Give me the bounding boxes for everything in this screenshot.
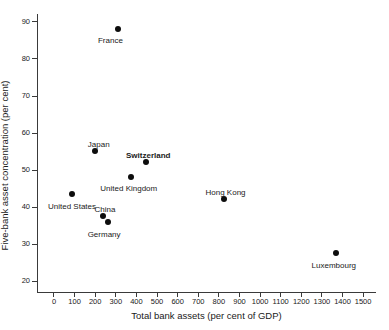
y-axis-title: Five-bank asset concentration (per cent): [0, 26, 12, 305]
data-point-label: United Kingdom: [100, 185, 157, 193]
y-tick-label: 60: [22, 129, 30, 137]
data-point-label: China: [94, 206, 115, 214]
y-tick-label: 90: [22, 18, 30, 26]
x-tick-label: 1100: [273, 298, 289, 306]
x-tick-label: 800: [213, 298, 226, 306]
data-point-label: Switzerland: [126, 152, 170, 160]
data-point-label: Germany: [88, 231, 121, 239]
x-tick-label: 1300: [314, 298, 331, 306]
x-tick-label: 900: [233, 298, 246, 306]
x-axis-line: [37, 292, 376, 293]
y-tick-label: 20: [22, 278, 30, 286]
x-tick: 1000: [260, 293, 261, 297]
data-point-label: Japan: [88, 141, 110, 149]
x-tick: 800: [218, 293, 219, 297]
data-point-label: United States: [48, 203, 96, 211]
x-tick: 1300: [321, 293, 322, 297]
x-tick-label: 0: [52, 298, 56, 306]
x-tick: 400: [136, 293, 137, 297]
x-tick: 1200: [301, 293, 302, 297]
x-tick-label: 1000: [252, 298, 269, 306]
x-tick-label: 1200: [293, 298, 310, 306]
y-tick-label: 50: [22, 166, 30, 174]
x-tick-label: 1400: [334, 298, 351, 306]
x-tick-label: 300: [110, 298, 123, 306]
x-tick-label: 100: [68, 298, 81, 306]
x-tick-label: 600: [171, 298, 184, 306]
x-tick: 1100: [280, 293, 281, 297]
plot-area: [37, 14, 375, 292]
x-tick: 900: [239, 293, 240, 297]
data-point-marker: [333, 250, 339, 256]
y-tick-label: 70: [22, 92, 30, 100]
scatter-chart: 2030405060708090 01002003004005006007008…: [0, 0, 389, 330]
data-point-label: France: [98, 37, 123, 45]
x-tick: 700: [198, 293, 199, 297]
y-tick-label: 30: [22, 241, 30, 249]
x-tick-label: 500: [151, 298, 164, 306]
x-tick: 300: [115, 293, 116, 297]
x-tick: 100: [74, 293, 75, 297]
x-tick-label: 200: [89, 298, 102, 306]
x-tick-label: 400: [130, 298, 143, 306]
x-tick: 0: [53, 293, 54, 297]
y-tick-label: 40: [22, 203, 30, 211]
data-point-label: Hong Kong: [206, 189, 246, 197]
data-point-label: Luxembourg: [312, 262, 356, 270]
data-point-marker: [105, 219, 111, 225]
x-tick-label: 1500: [355, 298, 372, 306]
data-point-marker: [69, 191, 75, 197]
x-tick: 1400: [342, 293, 343, 297]
y-tick-label: 80: [22, 55, 30, 63]
x-axis-title: Total bank assets (per cent of GDP): [37, 311, 376, 321]
x-tick-label: 700: [192, 298, 205, 306]
x-tick: 1500: [363, 293, 364, 297]
data-point-marker: [128, 174, 134, 180]
x-tick: 200: [95, 293, 96, 297]
x-tick: 600: [177, 293, 178, 297]
x-tick: 500: [157, 293, 158, 297]
